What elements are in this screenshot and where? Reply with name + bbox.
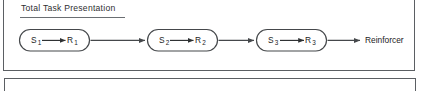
node-3-response: R3 (305, 35, 316, 46)
node-1-stimulus: S1 (31, 35, 41, 46)
node-2-response-subscript: 2 (201, 39, 206, 46)
node-1-response-subscript: 1 (73, 39, 78, 46)
diagram-panel-bottom (4, 78, 416, 91)
diagram-panel-top: Total Task Presentation (3, 0, 415, 71)
node-1-stimulus-letter: S (31, 35, 37, 45)
node-2-stimulus-letter: S (159, 35, 165, 45)
node-3-stimulus-subscript: 3 (274, 39, 279, 46)
node-3-stimulus: S3 (268, 35, 278, 46)
node-2-response: R2 (195, 35, 206, 46)
reinforcer-label: Reinforcer (365, 35, 404, 45)
node-3-response-subscript: 3 (311, 39, 316, 46)
node-1-stimulus-subscript: 1 (37, 39, 42, 46)
node-2-stimulus-subscript: 2 (165, 39, 170, 46)
figure-root: Total Task Presentation (0, 0, 422, 91)
node-2-stimulus: S2 (159, 35, 169, 46)
node-1-response: R1 (67, 35, 78, 46)
node-3-stimulus-letter: S (268, 35, 274, 45)
